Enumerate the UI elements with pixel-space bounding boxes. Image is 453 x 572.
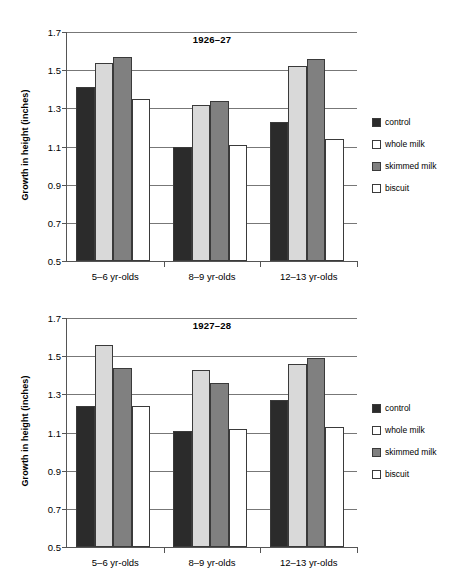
y-tick-label: 1.1 [48, 427, 61, 438]
y-tick-label: 0.9 [48, 465, 61, 476]
legend-label: control [385, 117, 411, 127]
bars-2 [67, 318, 357, 547]
legend-label: whole milk [385, 425, 425, 435]
x-axis-tick [260, 261, 261, 267]
bar-biscuit-1 [229, 429, 248, 547]
legend-item: biscuit [372, 469, 452, 479]
x-axis-tick [164, 547, 165, 553]
x-axis-tick [164, 261, 165, 267]
y-tick-label: 1.5 [48, 351, 61, 362]
legend-item: whole milk [372, 139, 452, 149]
y-tick-label: 1.5 [48, 65, 61, 76]
y-tick-label: 1.7 [48, 27, 61, 38]
x-axis-label: 12–13 yr-olds [280, 557, 338, 568]
bar-control-1 [173, 431, 192, 547]
bar-whole-milk-0 [95, 345, 114, 547]
legend-item: skimmed milk [372, 161, 452, 171]
chart-panel-1926-27: Growth in height (inches) 1926–27 0.50.7… [0, 0, 453, 286]
figure-two-bar-charts: Growth in height (inches) 1926–27 0.50.7… [0, 0, 453, 572]
x-axis-tick [357, 547, 358, 553]
legend-item: control [372, 403, 452, 413]
y-tick-label: 0.7 [48, 217, 61, 228]
bar-skimmed-milk-2 [307, 59, 326, 261]
legend-swatch-icon [372, 118, 381, 127]
legend-label: control [385, 403, 411, 413]
bar-whole-milk-2 [288, 364, 307, 547]
bar-whole-milk-1 [192, 370, 211, 547]
bar-control-2 [270, 400, 289, 547]
bar-control-0 [76, 87, 95, 261]
bars-1 [67, 32, 357, 261]
legend-item: control [372, 117, 452, 127]
bar-skimmed-milk-1 [210, 101, 229, 261]
legend-swatch-icon [372, 470, 381, 479]
legend-label: skimmed milk [385, 447, 436, 457]
y-tick-label: 0.9 [48, 179, 61, 190]
y-tick-label: 0.7 [48, 503, 61, 514]
y-tick-label: 0.5 [48, 542, 61, 553]
plot-area-1: 1926–27 0.50.70.91.11.31.51.7 5–6 yr-old… [66, 32, 357, 262]
bar-skimmed-milk-1 [210, 383, 229, 547]
chart-panel-1927-28: Growth in height (inches) 1927–28 0.50.7… [0, 286, 453, 572]
y-tick-label: 1.7 [48, 313, 61, 324]
y-tick-mark [62, 261, 67, 262]
x-axis-label: 8–9 yr-olds [189, 271, 236, 282]
bar-control-1 [173, 147, 192, 262]
bar-biscuit-0 [132, 99, 151, 261]
bar-biscuit-1 [229, 145, 248, 261]
x-axis-label: 5–6 yr-olds [92, 557, 139, 568]
y-axis-title-2: Growth in height (inches) [20, 346, 34, 516]
legend-item: whole milk [372, 425, 452, 435]
legend-label: skimmed milk [385, 161, 436, 171]
bar-control-0 [76, 406, 95, 547]
legend-swatch-icon [372, 140, 381, 149]
legend-swatch-icon [372, 162, 381, 171]
legend-swatch-icon [372, 184, 381, 193]
y-tick-mark [62, 547, 67, 548]
legend-1: controlwhole milkskimmed milkbiscuit [372, 117, 452, 205]
legend-swatch-icon [372, 448, 381, 457]
legend-swatch-icon [372, 404, 381, 413]
plot-area-2: 1927–28 0.50.70.91.11.31.51.7 5–6 yr-old… [66, 318, 357, 548]
bar-biscuit-2 [325, 139, 344, 261]
legend-label: biscuit [385, 469, 409, 479]
y-axis-title-1: Growth in height (inches) [20, 60, 34, 230]
legend-label: whole milk [385, 139, 425, 149]
bar-skimmed-milk-2 [307, 358, 326, 547]
bar-skimmed-milk-0 [113, 57, 132, 261]
x-axis-label: 12–13 yr-olds [280, 271, 338, 282]
x-axis-tick [357, 261, 358, 267]
y-tick-label: 1.3 [48, 389, 61, 400]
bar-whole-milk-0 [95, 63, 114, 261]
bar-biscuit-0 [132, 406, 151, 547]
x-axis-label: 5–6 yr-olds [92, 271, 139, 282]
y-tick-label: 1.3 [48, 103, 61, 114]
legend-swatch-icon [372, 426, 381, 435]
y-tick-label: 1.1 [48, 141, 61, 152]
bar-control-2 [270, 122, 289, 261]
legend-item: skimmed milk [372, 447, 452, 457]
bar-skimmed-milk-0 [113, 368, 132, 547]
legend-label: biscuit [385, 183, 409, 193]
x-axis-label: 8–9 yr-olds [189, 557, 236, 568]
legend-2: controlwhole milkskimmed milkbiscuit [372, 403, 452, 491]
y-tick-label: 0.5 [48, 256, 61, 267]
x-axis-tick [260, 547, 261, 553]
bar-whole-milk-2 [288, 66, 307, 261]
bar-biscuit-2 [325, 427, 344, 547]
legend-item: biscuit [372, 183, 452, 193]
bar-whole-milk-1 [192, 105, 211, 261]
